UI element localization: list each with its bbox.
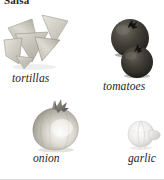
- bottom-divider: [0, 179, 164, 180]
- caption-garlic: garlic: [128, 152, 156, 164]
- figure-onion: [28, 94, 84, 152]
- onion-icon: [28, 94, 84, 152]
- figure-tortillas: [2, 12, 76, 72]
- caption-tomatoes: tomatoes: [103, 80, 145, 92]
- tomatoes-icon: [103, 17, 161, 79]
- figure-garlic: [126, 118, 162, 152]
- figure-tomatoes: [103, 17, 161, 79]
- caption-tortillas: tortillas: [12, 72, 49, 84]
- caption-onion: onion: [33, 152, 60, 164]
- tortilla-chips-icon: [2, 12, 76, 72]
- salsa-ingredients-figure: Salsa: [0, 0, 164, 180]
- garlic-icon: [126, 118, 162, 152]
- page-title: Salsa: [4, 0, 29, 6]
